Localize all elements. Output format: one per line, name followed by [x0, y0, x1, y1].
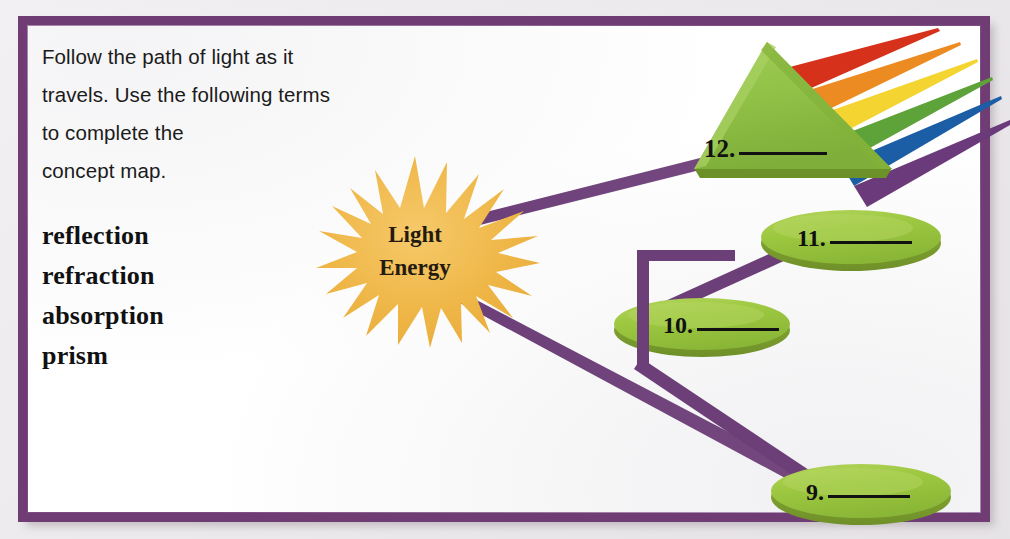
- node-10-blank[interactable]: [697, 328, 779, 331]
- sun-burst-label: Light Energy: [350, 218, 480, 284]
- word-bank-term-prism: prism: [42, 336, 164, 376]
- instruction-line-2: travels. Use the following terms: [42, 76, 362, 114]
- instruction-line-1: Follow the path of light as it: [42, 38, 362, 76]
- instruction-text: Follow the path of light as it travels. …: [42, 38, 362, 190]
- worksheet-page: Follow the path of light as it travels. …: [0, 0, 1010, 539]
- sun-label-line-2: Energy: [350, 251, 480, 284]
- node-10-label[interactable]: 10.: [663, 312, 779, 339]
- node-10-number: 10.: [663, 312, 693, 338]
- node-9-label[interactable]: 9.: [806, 479, 910, 506]
- node-11-blank[interactable]: [830, 241, 912, 244]
- node-9-blank[interactable]: [828, 495, 910, 498]
- word-bank: reflection refraction absorption prism: [42, 216, 164, 376]
- node-11-number: 11.: [797, 225, 826, 251]
- node-12-blank[interactable]: [739, 152, 827, 155]
- node-9-number: 9.: [806, 479, 824, 505]
- word-bank-term-absorption: absorption: [42, 296, 164, 336]
- instruction-line-4: concept map.: [42, 152, 362, 190]
- prism-base-shadow: [694, 168, 892, 178]
- node-12-number: 12.: [704, 135, 735, 162]
- node-12-label[interactable]: 12.: [704, 135, 827, 163]
- node-11-label[interactable]: 11.: [797, 225, 912, 252]
- sun-label-line-1: Light: [350, 218, 480, 251]
- word-bank-term-reflection: reflection: [42, 216, 164, 256]
- instruction-line-3: to complete the: [42, 114, 362, 152]
- word-bank-term-refraction: refraction: [42, 256, 164, 296]
